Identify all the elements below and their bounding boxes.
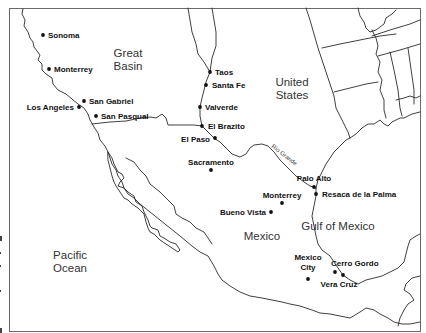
state-border-8: [390, 52, 402, 116]
city-marker: Cerro Gordo: [331, 259, 379, 274]
region-label-great-basin: Basin: [114, 60, 143, 72]
state-border-3: [334, 82, 378, 92]
city-dot-icon: [280, 201, 284, 205]
city-label: Monterrey: [54, 65, 93, 74]
state-border-7: [378, 44, 420, 56]
city-label: Valverde: [205, 103, 238, 112]
city-dot-icon: [41, 33, 45, 37]
city-label: Resaca de la Palma: [322, 190, 397, 199]
region-label-mexico: Mexico: [244, 230, 280, 242]
state-border-5: [372, 30, 386, 118]
city-marker: Santa Fe: [204, 81, 246, 90]
city-dot-icon: [341, 273, 345, 277]
city-label: San Pasqual: [101, 112, 149, 121]
region-label-gulf-of-mexico: Gulf of Mexico: [301, 220, 375, 232]
city-marker: Resaca de la Palma: [314, 190, 397, 199]
city-marker: Vera Cruz: [321, 273, 358, 289]
city-label: Los Angeles: [27, 103, 75, 112]
city-label: Monterrey: [263, 191, 302, 200]
city-marker: Monterrey: [263, 191, 302, 205]
edge-marks: [0, 236, 2, 333]
city-marker: Bueno Vista: [220, 208, 273, 217]
city-dot-icon: [200, 124, 204, 128]
city-dot-icon: [314, 192, 318, 196]
city-marker: El Brazito: [200, 122, 245, 131]
city-marker: MexicoCity: [294, 253, 321, 281]
city-marker: Taos: [208, 68, 234, 77]
region-label-united-states: States: [276, 89, 309, 101]
city-label: El Paso: [181, 135, 210, 144]
city-marker: Palo Alto: [297, 174, 331, 189]
city-dot-icon: [213, 136, 217, 140]
city-dot-icon: [312, 185, 316, 189]
baja-california: [108, 152, 180, 252]
city-marker: Valverde: [198, 103, 238, 112]
city-label: Cerro Gordo: [331, 259, 379, 268]
city-dot-icon: [198, 105, 202, 109]
city-dot-icon: [333, 270, 337, 274]
rio-grande-label: Rio Grande: [270, 143, 298, 167]
city-marker: El Paso: [181, 135, 217, 144]
yucatan-coast: [398, 276, 420, 326]
city-dot-icon: [209, 168, 213, 172]
city-marker: Sonoma: [41, 31, 80, 40]
city-dot-icon: [94, 114, 98, 118]
map-canvas: GreatBasinUnitedStatesGulf of MexicoMexi…: [0, 0, 426, 333]
territory-border-west: [188, 8, 210, 72]
state-border-9: [408, 48, 414, 104]
gulf-of-california-coast: [126, 158, 212, 244]
region-label-pacific-ocean: Ocean: [53, 262, 87, 274]
city-label: San Gabriel: [89, 97, 133, 106]
city-label: Vera Cruz: [321, 280, 358, 289]
city-marker: Monterrey: [47, 65, 93, 74]
gulf-coastline: [316, 112, 420, 188]
city-dot-icon: [77, 105, 81, 109]
city-label: Taos: [215, 68, 234, 77]
city-dot-icon: [204, 83, 208, 87]
region-label-great-basin: Great: [114, 47, 144, 59]
city-marker: San Pasqual: [94, 112, 148, 121]
city-marker: San Gabriel: [82, 97, 133, 106]
state-border-4: [358, 8, 396, 32]
city-label: City: [300, 263, 316, 272]
city-marker: Sacramento: [188, 158, 234, 172]
city-label: Bueno Vista: [220, 208, 267, 217]
state-border-10: [396, 96, 420, 100]
city-dot-icon: [47, 67, 51, 71]
map-frame: [10, 9, 421, 332]
state-border-1: [306, 8, 350, 138]
city-dot-icon: [306, 277, 310, 281]
city-dot-icon: [208, 70, 212, 74]
city-label: Mexico: [294, 253, 321, 262]
region-label-pacific-ocean: Pacific: [53, 249, 87, 261]
city-dot-icon: [82, 99, 86, 103]
region-label-united-states: United: [275, 76, 308, 88]
state-border-2: [322, 34, 396, 48]
city-label: Sacramento: [188, 158, 234, 167]
city-label: Sonoma: [48, 31, 80, 40]
city-label: El Brazito: [208, 122, 245, 131]
city-label: Santa Fe: [212, 81, 246, 90]
city-marker: Los Angeles: [27, 103, 81, 112]
city-label: Palo Alto: [297, 174, 331, 183]
gulf-coastline-mexico: [312, 188, 420, 284]
city-dot-icon: [269, 210, 273, 214]
